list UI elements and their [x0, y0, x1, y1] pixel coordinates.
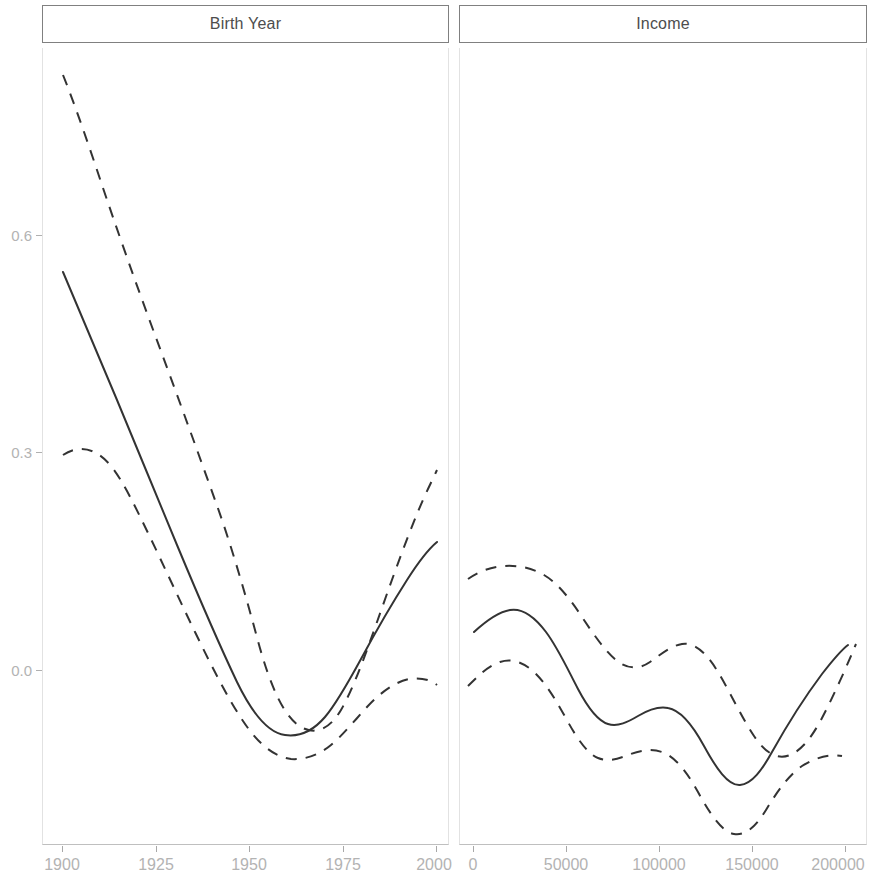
- x-tick-label-income-200000: 200000: [811, 857, 864, 873]
- facet-strip-label-birth-year: Birth Year: [210, 16, 281, 32]
- y-tick-mark-0-0: [36, 670, 42, 671]
- panel-income: [459, 48, 867, 845]
- facet-chart: Birth Year 0.6 0.3 0.0 1900 1925 1950 19…: [0, 0, 872, 883]
- y-tick-label-0-3: 0.3: [0, 445, 32, 460]
- x-tick-label-birth-year-1950: 1950: [231, 857, 267, 873]
- x-tick-label-birth-year-1925: 1925: [138, 857, 174, 873]
- x-tick-mark-income-50000: [566, 846, 567, 852]
- y-tick-mark-0-3: [36, 452, 42, 453]
- x-tick-label-income-0: 0: [469, 857, 478, 873]
- facet-strip-income: Income: [459, 5, 867, 43]
- x-tick-mark-income-150000: [752, 846, 753, 852]
- curve-income-fit: [474, 610, 848, 785]
- x-tick-label-income-50000: 50000: [544, 857, 589, 873]
- curve-birth-year-lower: [63, 449, 437, 759]
- x-tick-mark-income-0: [473, 846, 474, 852]
- x-tick-mark-birth-year-1900: [62, 846, 63, 852]
- x-tick-label-income-100000: 100000: [632, 857, 685, 873]
- facet-strip-birth-year: Birth Year: [42, 5, 449, 43]
- x-tick-label-birth-year-1900: 1900: [44, 857, 80, 873]
- x-tick-label-income-150000: 150000: [725, 857, 778, 873]
- x-tick-mark-birth-year-1950: [249, 846, 250, 852]
- panel-birth-year-curves: [43, 48, 449, 845]
- x-tick-mark-birth-year-2000: [436, 846, 437, 852]
- curve-birth-year-fit: [63, 272, 437, 735]
- x-tick-mark-income-200000: [845, 846, 846, 852]
- x-tick-mark-income-100000: [659, 846, 660, 852]
- facet-strip-label-income: Income: [636, 16, 690, 32]
- panel-income-curves: [460, 48, 867, 845]
- x-tick-label-birth-year-2000: 2000: [416, 857, 452, 873]
- panel-birth-year: [42, 48, 449, 845]
- x-tick-label-birth-year-1975: 1975: [325, 857, 361, 873]
- y-tick-label-0-0: 0.0: [0, 663, 32, 678]
- y-tick-mark-0-6: [36, 235, 42, 236]
- curve-income-lower: [468, 661, 842, 835]
- x-tick-mark-birth-year-1925: [156, 846, 157, 852]
- y-tick-label-0-6: 0.6: [0, 228, 32, 243]
- curve-income-upper: [468, 566, 856, 757]
- x-tick-mark-birth-year-1975: [343, 846, 344, 852]
